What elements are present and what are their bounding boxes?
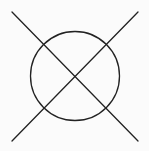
- circle-x-icon: [0, 0, 149, 151]
